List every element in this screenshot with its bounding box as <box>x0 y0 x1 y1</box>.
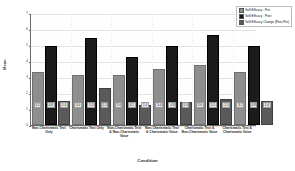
bar-group: 3.24.81.4 <box>233 14 274 125</box>
bar-value-label: 3.2 <box>34 102 42 108</box>
y-tick-label: 5 <box>26 44 28 48</box>
category-label: Charismatic Text & Charismatic Voice <box>218 127 256 157</box>
category-label: Non-Charismatic Text Only <box>30 127 68 157</box>
bar-value-label: 1.4 <box>60 102 68 108</box>
bar[interactable]: 5.3 <box>85 38 97 125</box>
bar-value-label: 1.3 <box>182 102 190 108</box>
bar-value-label: 3.2 <box>237 102 245 108</box>
bar[interactable]: 3.6 <box>194 65 206 125</box>
y-tick-label: 7 <box>26 12 28 16</box>
bar-group: 3.44.81.3 <box>152 14 193 125</box>
bar-value-label: 4.8 <box>250 102 258 108</box>
bar[interactable]: 1.4 <box>58 101 70 125</box>
bar-value-label: 3.0 <box>115 102 123 108</box>
legend-item[interactable]: Self-Efficacy - Pre <box>239 8 289 13</box>
bar-value-label: 3.6 <box>196 102 204 108</box>
bar[interactable]: 1.3 <box>180 102 192 125</box>
bar[interactable]: 4.8 <box>45 46 57 125</box>
bar-value-label: 4.8 <box>47 102 55 108</box>
legend-label: Self-Efficacy - Post <box>245 15 271 18</box>
bar-value-label: 4.8 <box>169 102 177 108</box>
bar-value-label: 1.1 <box>141 102 149 108</box>
bar[interactable]: 1.5 <box>220 99 232 125</box>
bar[interactable]: 3.0 <box>72 75 84 125</box>
legend-swatch <box>239 14 244 19</box>
category-axis-labels: Non-Charismatic Text OnlyCharismatic Tex… <box>30 127 256 157</box>
legend-swatch <box>239 20 244 25</box>
bar[interactable]: 3.4 <box>153 69 165 125</box>
bar[interactable]: 3.0 <box>113 75 125 125</box>
bar[interactable]: 3.2 <box>234 72 246 125</box>
bar-group: 3.24.81.4 <box>31 14 71 125</box>
y-tick-label: 2 <box>26 92 28 96</box>
category-label: Non-Charismatic Text & Non-Charismatic V… <box>105 127 143 157</box>
legend-item[interactable]: Self-Efficacy - Post <box>239 14 289 19</box>
bar-chart: Mean 01234567 3.24.81.43.05.32.23.04.11.… <box>0 0 295 171</box>
legend-swatch <box>239 8 244 13</box>
bar-group: 3.04.11.1 <box>111 14 152 125</box>
y-tick-label: 4 <box>26 60 28 64</box>
plot-area: 01234567 3.24.81.43.05.32.23.04.11.13.44… <box>30 14 256 126</box>
bar-value-label: 5.5 <box>209 102 217 108</box>
y-tick-label: 1 <box>26 108 28 112</box>
bar-group: 3.65.51.5 <box>192 14 233 125</box>
y-tick-label: 3 <box>26 76 28 80</box>
x-axis-title: Condition <box>0 158 295 163</box>
legend-item[interactable]: Self-Efficacy Change (Post-Pre) <box>239 20 289 25</box>
bar[interactable]: 4.8 <box>166 46 178 125</box>
bar[interactable]: 1.4 <box>261 101 273 125</box>
category-label: Non-Charismatic Text & Charismatic Voice <box>143 127 181 157</box>
chart-legend: Self-Efficacy - PreSelf-Efficacy - PostS… <box>236 6 292 27</box>
y-axis-title: Mean <box>2 59 7 70</box>
bar[interactable]: 3.2 <box>32 72 44 125</box>
bar[interactable]: 2.2 <box>99 88 111 125</box>
bar[interactable]: 4.8 <box>248 46 260 125</box>
bar-value-label: 3.4 <box>155 102 163 108</box>
category-label: Charismatic Text & Non-Charismatic Voice <box>181 127 219 157</box>
y-tick-label: 6 <box>26 28 28 32</box>
category-label: Charismatic Text Only <box>68 127 106 157</box>
bar[interactable]: 4.1 <box>126 57 138 125</box>
bar-value-label: 3.0 <box>74 102 82 108</box>
bar[interactable]: 5.5 <box>207 35 219 125</box>
bar-group: 3.05.32.2 <box>71 14 112 125</box>
bar[interactable]: 1.1 <box>139 105 151 125</box>
bar-value-label: 1.5 <box>222 102 230 108</box>
legend-label: Self-Efficacy Change (Post-Pre) <box>245 21 289 24</box>
bar-value-label: 5.3 <box>87 102 95 108</box>
legend-label: Self-Efficacy - Pre <box>245 9 270 12</box>
y-tick-label: 0 <box>26 124 28 128</box>
bar-value-label: 4.1 <box>128 102 136 108</box>
bar-value-label: 1.4 <box>263 102 271 108</box>
bar-value-label: 2.2 <box>101 102 109 108</box>
bar-groups: 3.24.81.43.05.32.23.04.11.13.44.81.33.65… <box>31 14 256 125</box>
